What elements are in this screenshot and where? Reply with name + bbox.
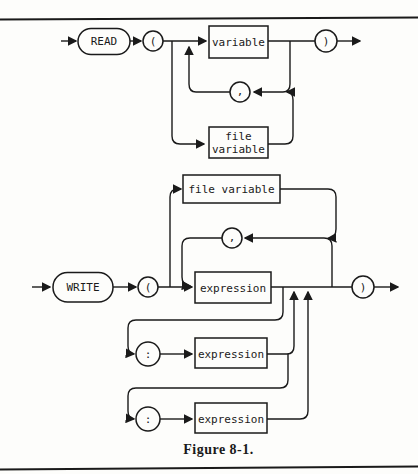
top-rule-line	[0, 18, 418, 20]
read-comma-label: ,	[237, 85, 244, 98]
write-colon2-branch-line	[128, 354, 288, 419]
write-file-variable-label: file variable	[188, 183, 274, 196]
write-colon1-label: :	[145, 348, 152, 361]
syntax-diagram-figure: READ ( variable ) , f	[0, 0, 418, 474]
write-open-paren-label: (	[145, 281, 152, 294]
write-colon1-expression-label: expression	[198, 348, 264, 361]
read-file-variable-return-line	[268, 92, 293, 144]
write-comma-label: ,	[229, 231, 236, 244]
read-file-variable-label-line1: file	[225, 130, 252, 143]
read-terminal-label: READ	[91, 35, 118, 48]
write-file-variable-return-line	[280, 189, 336, 239]
write-comma-loop-down-line	[245, 238, 332, 287]
write-expression-label: expression	[200, 282, 266, 295]
bottom-rule-line	[0, 467, 418, 470]
figure-caption: Figure 8-1.	[183, 442, 254, 457]
read-open-paren-label: (	[150, 35, 157, 48]
write-comma-loop-return-line	[182, 238, 222, 286]
read-syntax-diagram: READ ( variable ) , f	[61, 26, 360, 158]
write-terminal-label: WRITE	[66, 281, 99, 294]
write-close-paren-label: )	[360, 281, 367, 294]
write-file-variable-branch-line	[170, 189, 181, 287]
write-colon2-label: :	[145, 413, 152, 426]
write-syntax-diagram: WRITE ( file variable , expression	[32, 175, 398, 433]
book-page: READ ( variable ) , f	[0, 0, 418, 474]
write-colon2-expression-label: expression	[198, 413, 264, 426]
read-file-variable-label-line2: variable	[212, 143, 265, 156]
read-close-paren-label: )	[323, 35, 330, 48]
read-variable-label: variable	[212, 36, 265, 49]
